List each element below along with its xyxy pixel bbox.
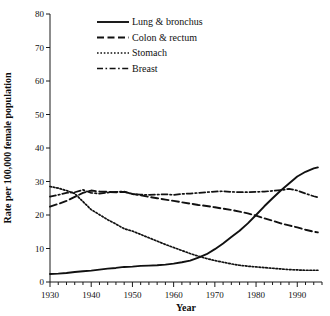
y-tick-label: 40 xyxy=(35,143,45,153)
series-lines xyxy=(50,167,318,274)
legend-label: Lung & bronchus xyxy=(132,16,203,27)
y-axis-title: Rate per 100,000 female population xyxy=(2,72,13,224)
x-tick-label: 1980 xyxy=(247,290,266,300)
y-tick-label: 10 xyxy=(35,244,45,254)
y-tick-label: 30 xyxy=(35,177,45,187)
line-chart: 01020304050607080 1930194019501960197019… xyxy=(0,0,330,316)
series-colon-rectum xyxy=(50,191,318,233)
y-tick-label: 80 xyxy=(35,9,45,19)
x-tick-label: 1960 xyxy=(165,290,184,300)
x-axis-title: Year xyxy=(176,302,197,313)
y-tick-label: 0 xyxy=(40,277,45,287)
legend-label: Stomach xyxy=(132,47,167,58)
x-tick-label: 1950 xyxy=(123,290,142,300)
chart-legend: Lung & bronchusColon & rectumStomachBrea… xyxy=(97,16,203,74)
series-stomach xyxy=(50,187,318,271)
legend-label: Breast xyxy=(132,63,158,74)
x-axis: 1930194019501960197019801990 xyxy=(41,282,322,300)
x-tick-label: 1930 xyxy=(41,290,60,300)
x-tick-label: 1990 xyxy=(288,290,307,300)
y-tick-label: 20 xyxy=(35,210,45,220)
y-tick-label: 50 xyxy=(35,110,45,120)
y-axis: 01020304050607080 xyxy=(35,9,50,287)
legend-label: Colon & rectum xyxy=(132,32,197,43)
x-tick-label: 1940 xyxy=(82,290,101,300)
chart-container: 01020304050607080 1930194019501960197019… xyxy=(0,0,330,316)
series-lung-bronchus xyxy=(50,167,318,274)
y-tick-label: 60 xyxy=(35,76,45,86)
x-tick-label: 1970 xyxy=(206,290,225,300)
y-tick-label: 70 xyxy=(35,43,45,53)
